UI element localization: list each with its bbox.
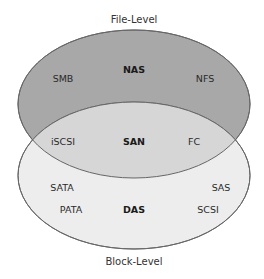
nas-label: NAS	[123, 64, 145, 75]
san-label: SAN	[123, 136, 145, 147]
iscsi-label: iSCSI	[51, 136, 75, 147]
nfs-label: NFS	[196, 73, 214, 84]
sas-label: SAS	[212, 182, 231, 193]
sata-label: SATA	[50, 182, 74, 193]
pata-label: PATA	[60, 204, 83, 215]
smb-label: SMB	[53, 73, 74, 84]
venn-diagram: File-Level Block-Level NAS SMB NFS iSCSI…	[0, 0, 264, 279]
scsi-label: SCSI	[197, 204, 219, 215]
fc-label: FC	[188, 136, 200, 147]
das-label: DAS	[123, 204, 145, 215]
file-level-title: File-Level	[111, 14, 158, 25]
block-level-title: Block-Level	[105, 256, 162, 267]
